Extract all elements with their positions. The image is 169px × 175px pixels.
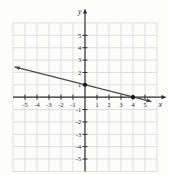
y-tick-label: 1 [78, 81, 81, 88]
x-tick-label: 3 [119, 101, 122, 108]
x-tick-label: -4 [34, 101, 40, 108]
y-tick-label: -2 [76, 118, 81, 125]
y-tick-label: 2 [78, 69, 81, 76]
y-tick-label: -4 [76, 143, 82, 150]
x-tick-label: 2 [107, 101, 110, 108]
y-axis-label: y [77, 7, 82, 16]
x-tick-label: -3 [46, 101, 51, 108]
point-marker [131, 95, 135, 99]
point-marker [83, 83, 87, 87]
x-axis-label: x [158, 100, 163, 109]
graph-figure: -5-4-3-2-11234554321-1-2-3-4-5xy [0, 0, 169, 175]
y-tick-label: -3 [76, 131, 81, 138]
x-tick-label: -1 [70, 101, 75, 108]
y-tick-label: -1 [76, 106, 81, 113]
y-tick-label: 5 [78, 32, 81, 39]
x-tick-label: 5 [143, 101, 146, 108]
y-tick-label: 3 [78, 56, 81, 63]
coordinate-plane: -5-4-3-2-11234554321-1-2-3-4-5xy [0, 0, 169, 175]
x-tick-label: -2 [58, 101, 63, 108]
y-tick-label: -5 [76, 155, 81, 162]
x-tick-label: 1 [95, 101, 98, 108]
x-tick-label: -5 [22, 101, 27, 108]
